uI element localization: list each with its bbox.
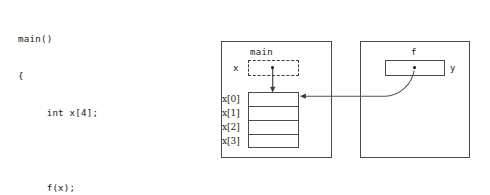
figure-canvas: main() { int x[4]; f(x); } f(y) int y[];…	[0, 0, 490, 195]
variable-label-x: x	[233, 63, 238, 73]
array-block-x	[248, 92, 299, 148]
code-line: main()	[18, 33, 98, 45]
code-line: {	[18, 70, 98, 82]
code-line: f(x);	[18, 182, 98, 194]
stack-frame-f	[360, 41, 470, 158]
array-cell	[249, 107, 298, 121]
variable-label-y: y	[450, 63, 455, 73]
frame-title-main: main	[250, 47, 273, 57]
code-line	[18, 144, 98, 156]
array-cell	[249, 135, 298, 149]
array-index-label: x[2]	[222, 122, 240, 132]
array-index-label: x[3]	[222, 136, 240, 146]
code-line: int x[4];	[18, 107, 98, 119]
frame-title-f: f	[411, 47, 417, 57]
array-cell	[249, 121, 298, 135]
array-index-label: x[1]	[222, 108, 240, 118]
array-index-label: x[0]	[222, 94, 240, 104]
code-listing: main() { int x[4]; f(x); } f(y) int y[];…	[18, 8, 98, 195]
array-cell	[249, 93, 298, 107]
